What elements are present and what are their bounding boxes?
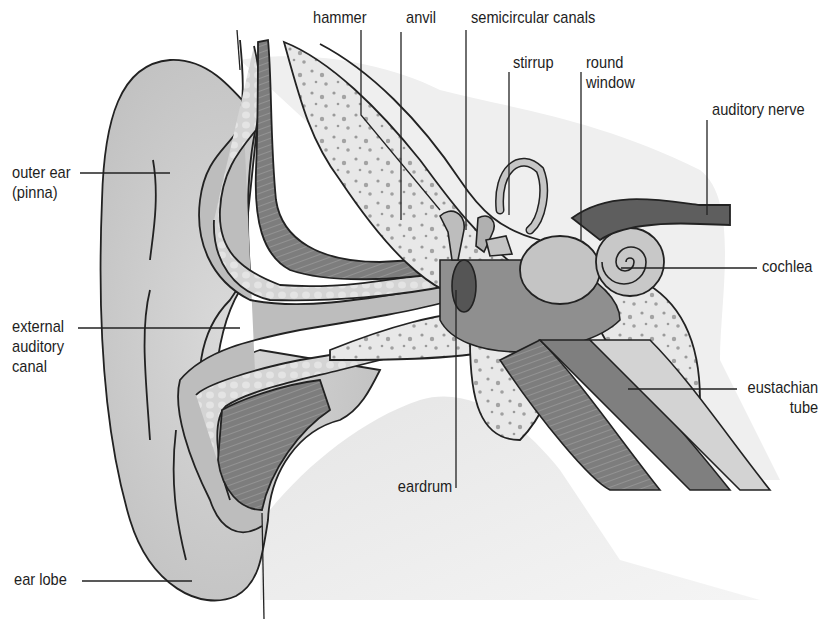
label-eardrum: eardrum — [398, 477, 452, 497]
label-semicircular-canals: semicircular canals — [471, 8, 595, 28]
label-stirrup: stirrup — [513, 53, 554, 73]
label-round-window: roundwindow — [586, 53, 635, 93]
label-eustachian-tube: eustachiantube — [747, 378, 818, 418]
label-outer-ear: outer ear(pinna) — [12, 163, 71, 203]
ear-anatomy-diagram: hammer anvil semicircular canals stirrup… — [0, 0, 837, 626]
label-anvil: anvil — [406, 8, 436, 28]
label-hammer: hammer — [313, 8, 367, 28]
label-external-auditory-canal: externalauditorycanal — [12, 317, 64, 377]
label-cochlea: cochlea — [762, 257, 812, 277]
label-auditory-nerve: auditory nerve — [712, 100, 805, 120]
ear-illustration — [0, 0, 837, 626]
label-ear-lobe: ear lobe — [14, 570, 67, 590]
cochlea-shape — [596, 228, 664, 296]
